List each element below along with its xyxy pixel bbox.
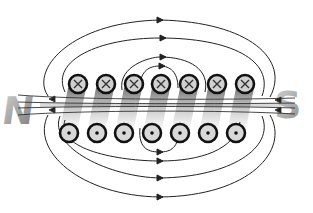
conductor-into-page	[97, 75, 115, 93]
conductor-out-of-page	[88, 124, 106, 142]
conductor-into-page	[69, 75, 87, 93]
conductor-out-of-page	[143, 124, 161, 142]
conductor-out-of-page	[227, 124, 245, 142]
conductor-into-page	[125, 75, 143, 93]
south-pole-label: S	[274, 83, 301, 127]
solenoid-field-diagram: N S	[0, 0, 313, 213]
conductor-out-of-page	[199, 124, 217, 142]
conductor-into-page	[236, 75, 254, 93]
conductor-out-of-page	[60, 124, 78, 142]
coil-shadows	[60, 88, 254, 128]
conductor-into-page	[208, 75, 226, 93]
conductor-into-page	[152, 75, 170, 93]
conductor-out-of-page	[171, 124, 189, 142]
conductor-out-of-page	[115, 124, 133, 142]
conductor-into-page	[180, 75, 198, 93]
svg-text:S: S	[274, 83, 301, 127]
